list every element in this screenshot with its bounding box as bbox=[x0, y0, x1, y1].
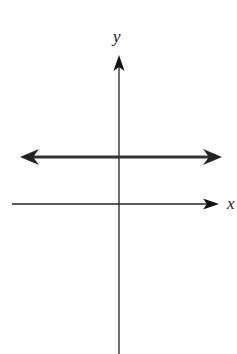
y-axis-label: y bbox=[113, 28, 121, 45]
x-axis bbox=[12, 199, 219, 210]
x-axis-label: x bbox=[227, 195, 235, 212]
coordinate-plane bbox=[0, 0, 237, 354]
horizontal-line bbox=[20, 149, 222, 165]
